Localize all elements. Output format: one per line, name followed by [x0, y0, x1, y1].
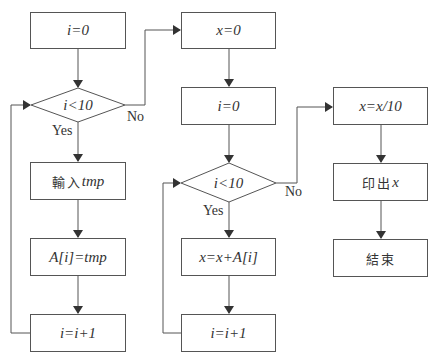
node-text-var: tmp: [82, 173, 105, 190]
node-text: x=x/10: [359, 98, 402, 115]
process-init-i-1: i=0: [30, 12, 126, 49]
label-no-2: No: [285, 185, 302, 199]
node-text: i=i+1: [60, 325, 96, 342]
edge-cond2-no: [276, 107, 332, 183]
edge-cond1-no: [125, 30, 180, 105]
node-text-cjk: 輸入: [52, 172, 82, 191]
node-text-var: x: [392, 174, 399, 191]
node-text: i=0: [218, 98, 240, 115]
process-input-tmp: 輸入tmp: [30, 162, 126, 200]
process-init-i-2: i=0: [181, 87, 276, 125]
node-text: A[i]=tmp: [49, 249, 107, 266]
node-text: x=x+A[i]: [199, 249, 258, 266]
process-inc-i-1: i=i+1: [30, 314, 126, 352]
node-text-cjk: 結束: [366, 249, 396, 268]
edge-inc1-loop-back: [11, 105, 30, 333]
terminal-end: 結束: [333, 239, 428, 277]
process-init-x: x=0: [181, 12, 276, 49]
label-no-1: No: [127, 110, 144, 124]
node-text: i=0: [67, 22, 89, 39]
process-assign-a: A[i]=tmp: [30, 238, 126, 276]
process-div-x: x=x/10: [333, 87, 428, 125]
node-text: i<10: [214, 175, 243, 192]
node-text: x=0: [216, 22, 240, 39]
node-text: i<10: [63, 97, 92, 114]
process-inc-i-2: i=i+1: [181, 314, 276, 352]
process-sum-x: x=x+A[i]: [181, 238, 276, 276]
decision-cond1: i<10: [31, 88, 125, 122]
node-text: i=i+1: [210, 325, 246, 342]
edge-inc2-loop-back: [163, 183, 181, 333]
decision-cond2: i<10: [181, 164, 276, 202]
label-yes-2: Yes: [203, 204, 223, 218]
process-print-x: 印出x: [333, 163, 428, 201]
node-text-cjk: 印出: [362, 173, 392, 192]
label-yes-1: Yes: [52, 124, 72, 138]
